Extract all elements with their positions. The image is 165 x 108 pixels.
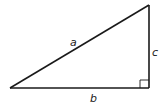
label-hypotenuse: a bbox=[70, 36, 77, 49]
label-height: c bbox=[152, 46, 158, 59]
triangle-diagram: a b c bbox=[0, 0, 165, 108]
hypotenuse-side bbox=[10, 5, 149, 88]
right-angle-marker bbox=[140, 80, 149, 88]
triangle bbox=[10, 5, 149, 88]
label-base: b bbox=[90, 92, 97, 105]
